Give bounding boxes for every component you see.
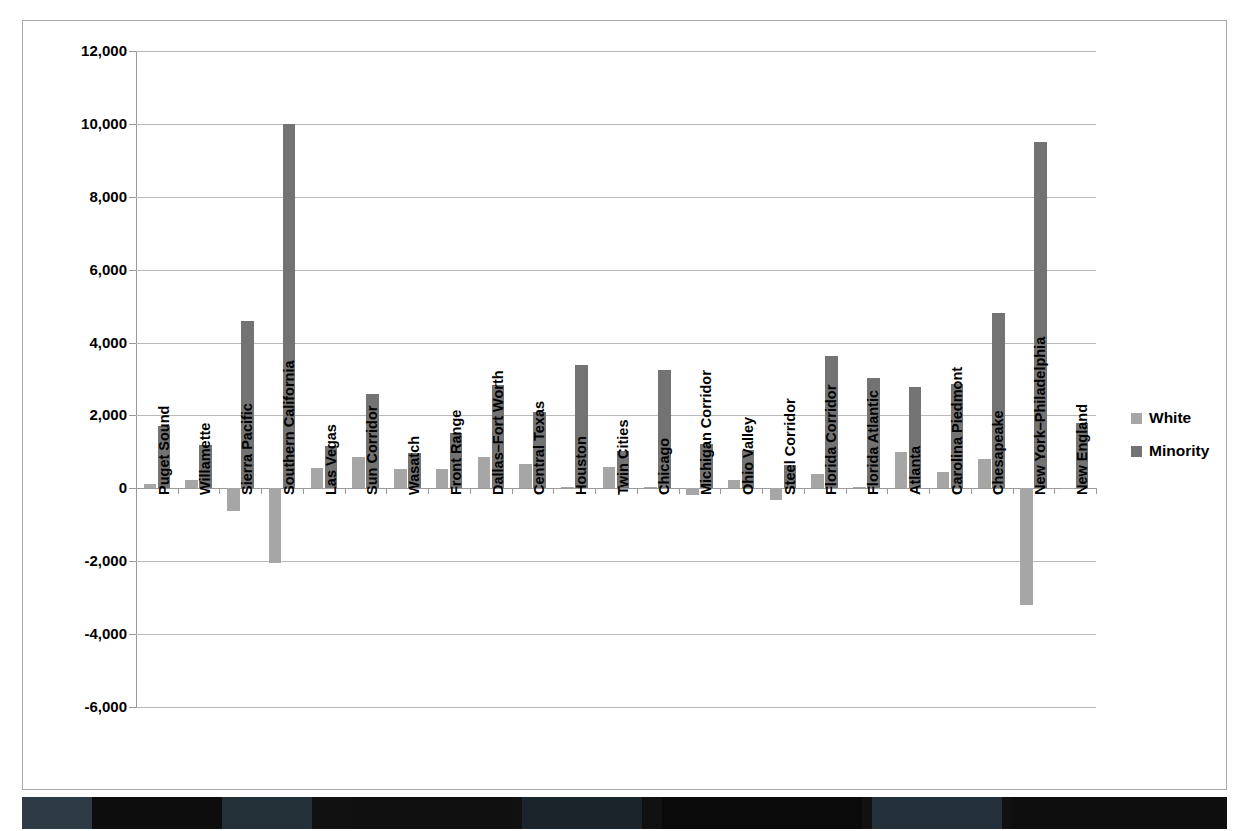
category-label: Central Texas <box>532 401 547 495</box>
category-label: Puget Sound <box>157 406 172 495</box>
category-label: Twin Cities <box>616 420 631 495</box>
chart-page: 12,00010,0008,0006,0004,0002,0000-2,000-… <box>0 0 1249 831</box>
y-tick-2000 <box>129 415 136 416</box>
bar-white[interactable] <box>603 467 616 488</box>
bar-white[interactable] <box>561 487 574 489</box>
y-tick-label--4000: -4,000 <box>84 626 127 641</box>
bar-white[interactable] <box>311 468 324 488</box>
bar-group <box>887 51 929 707</box>
bar-white[interactable] <box>144 484 157 488</box>
legend-swatch-white-icon <box>1131 413 1142 424</box>
y-tick-label--2000: -2,000 <box>84 553 127 568</box>
category-label: Ohio Valley <box>741 417 756 495</box>
bar-white[interactable] <box>185 480 198 488</box>
category-label: Atlanta <box>908 446 923 495</box>
y-tick-8000 <box>129 197 136 198</box>
category-label: Front Range <box>449 410 464 495</box>
chart-frame: 12,00010,0008,0006,0004,0002,0000-2,000-… <box>22 20 1227 790</box>
y-tick-label--6000: -6,000 <box>84 699 127 714</box>
y-tick-label-8000: 8,000 <box>89 189 127 204</box>
scan-band <box>352 797 512 829</box>
y-tick--6000 <box>129 707 136 708</box>
y-axis-labels: 12,00010,0008,0006,0004,0002,0000-2,000-… <box>23 51 127 707</box>
page-scan-artifact-strip <box>22 797 1227 829</box>
x-tick <box>1096 488 1097 494</box>
scan-band <box>872 797 1002 829</box>
scan-band <box>522 797 642 829</box>
bar-group <box>428 51 470 707</box>
y-tick-6000 <box>129 270 136 271</box>
bar-group <box>637 51 679 707</box>
category-label: Florida Atlantic <box>866 390 881 495</box>
y-tick-10000 <box>129 124 136 125</box>
category-label: Sun Corridor <box>365 406 380 495</box>
category-label: Wasatch <box>407 436 422 495</box>
bar-white[interactable] <box>686 488 699 495</box>
bar-white[interactable] <box>1020 488 1033 605</box>
category-label: New York–Philadelphia <box>1033 337 1048 495</box>
y-tick-0 <box>129 488 136 489</box>
bar-group <box>386 51 428 707</box>
bar-group <box>512 51 554 707</box>
category-label: Chicago <box>657 438 672 495</box>
scan-band <box>92 797 222 829</box>
y-tick-label-4000: 4,000 <box>89 335 127 350</box>
category-label: Chesapeake <box>991 411 1006 496</box>
category-label: Florida Corridor <box>824 385 839 495</box>
bar-white[interactable] <box>937 472 950 488</box>
category-label: Houston <box>574 437 589 496</box>
bar-white[interactable] <box>519 464 532 489</box>
bar-group <box>720 51 762 707</box>
y-tick-label-10000: 10,000 <box>81 116 127 131</box>
y-tick--4000 <box>129 634 136 635</box>
y-tick-4000 <box>129 343 136 344</box>
scan-band <box>662 797 862 829</box>
bar-group <box>595 51 637 707</box>
legend: White Minority <box>1131 409 1241 475</box>
bar-white[interactable] <box>728 480 741 488</box>
bar-white[interactable] <box>895 452 908 488</box>
category-label: Steel Corridor <box>783 399 798 496</box>
y-tick-label-6000: 6,000 <box>89 262 127 277</box>
bar-group <box>178 51 220 707</box>
category-label: Carolina Piedmont <box>950 367 965 495</box>
category-label: Michigan Corridor <box>699 370 714 495</box>
category-label: Southern California <box>282 361 297 496</box>
bar-group <box>553 51 595 707</box>
bar-group <box>219 51 261 707</box>
scan-band <box>22 797 92 829</box>
bar-white[interactable] <box>352 457 365 488</box>
bar-group <box>971 51 1013 707</box>
legend-label-white: White <box>1149 409 1191 427</box>
y-tick--2000 <box>129 561 136 562</box>
y-tick-label-12000: 12,000 <box>81 43 127 58</box>
y-tick-12000 <box>129 51 136 52</box>
bar-group <box>1054 51 1096 707</box>
category-label: Dallas–Fort Worth <box>491 371 506 496</box>
y-tick-label-2000: 2,000 <box>89 407 127 422</box>
bar-white[interactable] <box>394 469 407 488</box>
bar-white[interactable] <box>770 488 783 500</box>
bar-white[interactable] <box>853 487 866 489</box>
category-label: Willamette <box>198 423 213 495</box>
scan-band <box>1012 797 1227 829</box>
bar-group <box>804 51 846 707</box>
y-tick-label-0: 0 <box>119 480 127 495</box>
bar-white[interactable] <box>269 488 282 563</box>
scan-band <box>222 797 312 829</box>
bar-white[interactable] <box>1062 488 1075 489</box>
category-label: Sierra Pacific <box>240 403 255 495</box>
bar-group <box>136 51 178 707</box>
bar-white[interactable] <box>478 457 491 488</box>
legend-item-minority[interactable]: Minority <box>1131 442 1241 460</box>
category-label: Las Vegas <box>324 424 339 495</box>
bar-white[interactable] <box>436 469 449 488</box>
legend-label-minority: Minority <box>1149 442 1209 460</box>
bar-group <box>846 51 888 707</box>
bar-group <box>303 51 345 707</box>
legend-swatch-minority-icon <box>1131 446 1142 457</box>
bar-group <box>762 51 804 707</box>
gridline--6000 <box>136 707 1096 708</box>
legend-item-white[interactable]: White <box>1131 409 1241 427</box>
bar-white[interactable] <box>227 488 240 511</box>
